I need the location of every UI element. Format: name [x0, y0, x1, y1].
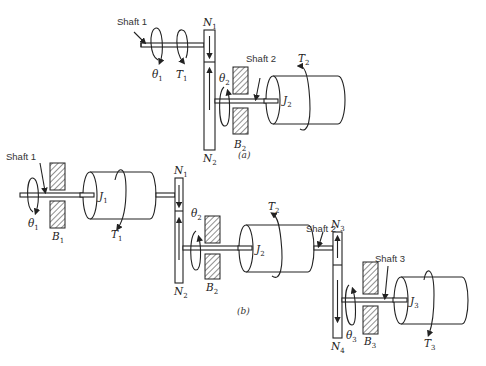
bearing-b2-top-b: [205, 216, 220, 243]
shaft-2-leader-a: [256, 78, 260, 98]
part-b: Shaft 1 Shaft 2 Shaft 3 θ1 B1 J1 T1 N1 N…: [6, 151, 468, 355]
bearing-b3-bottom-b: [363, 306, 378, 334]
label-n2-a: N2: [202, 152, 217, 167]
label-theta3-b: θ3: [346, 329, 357, 344]
caption-b: (b): [237, 306, 250, 316]
label-t1-a: T1: [176, 68, 187, 83]
label-n1-a: N1: [202, 16, 217, 31]
label-theta1-b: θ1: [28, 217, 39, 232]
caption-a: (a): [238, 150, 251, 160]
label-n4-b: N4: [330, 340, 345, 355]
label-shaft-1-b: Shaft 1: [6, 151, 36, 162]
bearing-b1-bottom-b: [50, 201, 65, 228]
bearing-b1-top-b: [50, 163, 65, 190]
label-t2-a: T2: [298, 52, 309, 67]
label-shaft-3-b: Shaft 3: [375, 253, 405, 264]
shaft-1-b: [20, 193, 88, 197]
gear-train-diagram: Shaft 1 Shaft 2 θ1 T1 N1 N2 θ2 B2 J2 T2 …: [0, 0, 486, 366]
label-theta1-a: θ1: [152, 68, 163, 83]
part-a: Shaft 1 Shaft 2 θ1 T1 N1 N2 θ2 B2 J2 T2 …: [117, 16, 345, 167]
theta3-rotation-arrow-b: [345, 285, 355, 325]
bearing-b2-top-a: [233, 67, 248, 94]
label-theta2-a: θ2: [219, 72, 230, 87]
bearing-b3-top-b: [363, 262, 378, 294]
shaft-2-b-right: [314, 246, 333, 250]
label-b3-b: B3: [363, 335, 376, 350]
label-n2-b: N2: [173, 285, 188, 300]
label-shaft-2-a: Shaft 2: [246, 53, 276, 64]
shaft-1-leader-a: [134, 32, 144, 42]
label-t1-b: T1: [111, 228, 122, 243]
label-t2-b: T2: [268, 200, 279, 215]
label-theta2-b: θ2: [191, 207, 202, 222]
shaft-2-b-left: [183, 246, 246, 250]
bearing-b2-bottom-a: [233, 108, 248, 134]
label-b2-b: B2: [205, 281, 218, 296]
bearing-b2-bottom-b: [205, 254, 220, 279]
label-n1-b: N1: [173, 164, 188, 179]
shaft-1-leader-b: [40, 163, 45, 191]
theta2-rotation-arrow-a: [220, 87, 230, 126]
shaft-1-a: [141, 43, 204, 47]
label-t3-b: T3: [424, 337, 435, 352]
label-shaft-1-a: Shaft 1: [117, 16, 147, 27]
label-b1-b: B1: [51, 230, 64, 245]
shaft-3-leader-b: [385, 266, 388, 297]
